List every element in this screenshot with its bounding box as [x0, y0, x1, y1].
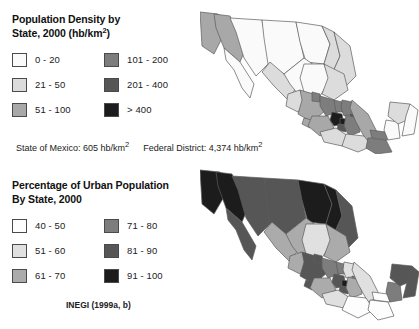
population-density-map[interactable]	[200, 2, 419, 154]
density-legend-items: 0 - 20 101 - 200 21 - 50 201 - 400 51 - …	[12, 47, 212, 122]
legend-swatch-icon	[12, 103, 27, 117]
legend-swatch-icon	[104, 219, 119, 233]
legend-item[interactable]: 40 - 50	[12, 219, 104, 233]
density-title-line1: Population Density by	[12, 12, 212, 26]
legend-item[interactable]: 0 - 20	[12, 53, 104, 67]
legend-item[interactable]: 71 - 80	[104, 219, 196, 233]
figure-container: Population Density by State, 2000 (hb/km…	[0, 0, 419, 329]
legend-item[interactable]: 201 - 400	[104, 78, 196, 92]
density-title-line2: State, 2000 (hb/km2)	[12, 26, 212, 40]
source-citation: INEGI (1999a, b)	[66, 300, 131, 310]
urban-legend: Percentage of Urban Population By State,…	[12, 178, 222, 288]
legend-label: 61 - 70	[35, 270, 65, 281]
legend-label: 101 - 200	[127, 54, 168, 65]
legend-item[interactable]: 101 - 200	[104, 53, 196, 67]
density-note-state-mexico: State of Mexico: 605 hb/km2	[16, 143, 129, 153]
legend-swatch-icon	[104, 244, 119, 258]
legend-swatch-icon	[12, 219, 27, 233]
legend-item[interactable]: > 400	[104, 103, 196, 117]
legend-label: 71 - 80	[127, 220, 157, 231]
urban-population-map[interactable]	[200, 166, 419, 326]
legend-swatch-icon	[12, 53, 27, 67]
legend-item[interactable]: 21 - 50	[12, 78, 104, 92]
legend-item[interactable]: 91 - 100	[104, 269, 196, 283]
legend-item[interactable]: 51 - 100	[12, 103, 104, 117]
legend-swatch-icon	[12, 78, 27, 92]
legend-item[interactable]: 61 - 70	[12, 269, 104, 283]
legend-label: 91 - 100	[127, 270, 163, 281]
legend-item[interactable]: 51 - 60	[12, 244, 104, 258]
legend-swatch-icon	[12, 244, 27, 258]
legend-label: 81 - 90	[127, 245, 157, 256]
urban-title: Percentage of Urban Population By State,…	[12, 178, 222, 206]
legend-label: 0 - 20	[35, 54, 60, 65]
urban-title-line1: Percentage of Urban Population	[12, 178, 222, 192]
legend-swatch-icon	[104, 103, 119, 117]
density-legend: Population Density by State, 2000 (hb/km…	[12, 12, 212, 122]
legend-label: 201 - 400	[127, 79, 168, 90]
legend-swatch-icon	[104, 53, 119, 67]
legend-label: 40 - 50	[35, 220, 65, 231]
legend-label: 51 - 100	[35, 104, 71, 115]
legend-item[interactable]: 81 - 90	[104, 244, 196, 258]
urban-title-line2: By State, 2000	[12, 192, 222, 206]
urban-legend-items: 40 - 50 71 - 80 51 - 60 81 - 90 61 - 70 …	[12, 213, 222, 288]
legend-label: > 400	[127, 104, 152, 115]
legend-label: 51 - 60	[35, 245, 65, 256]
legend-swatch-icon	[12, 269, 27, 283]
legend-swatch-icon	[104, 78, 119, 92]
legend-label: 21 - 50	[35, 79, 65, 90]
density-title: Population Density by State, 2000 (hb/km…	[12, 12, 212, 40]
legend-swatch-icon	[104, 269, 119, 283]
